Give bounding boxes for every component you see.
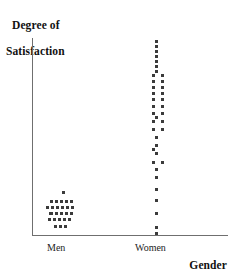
x-tick-label-men: Men [47,242,65,253]
data-point-women [155,176,158,179]
data-point-women [152,74,155,77]
data-point-women [152,161,155,164]
data-point-women [161,80,164,83]
data-point-men [50,212,53,215]
data-point-men [48,218,51,221]
data-point-women [155,116,158,119]
data-point-women [155,40,158,43]
data-point-women [155,168,158,171]
data-point-women [155,212,158,215]
y-axis-title: Degree of Satisfaction [6,6,65,71]
data-point-women [152,92,155,95]
y-axis-title-line2: Satisfaction [6,45,65,58]
data-point-men [53,218,56,221]
data-point-women [155,60,158,63]
data-point-men [68,218,71,221]
data-point-women [155,152,158,155]
data-point-men [55,212,58,215]
data-point-women [152,86,155,89]
x-tick-label-women: Women [135,242,166,253]
data-point-men [46,206,49,209]
data-point-women [155,136,158,139]
data-point-women [155,226,158,229]
data-point-men [59,225,62,228]
data-point-women [155,50,158,53]
data-point-women [152,105,155,108]
data-point-women [152,112,155,115]
data-point-men [70,200,73,203]
x-axis-title: Gender [189,259,227,271]
data-point-women [155,70,158,73]
data-point-men [58,218,61,221]
data-point-women [152,148,155,151]
data-point-men [66,206,69,209]
data-point-men [63,218,66,221]
data-point-women [161,105,164,108]
data-point-men [64,225,67,228]
data-point-women [161,161,164,164]
data-point-men [49,212,52,215]
data-point-women [155,199,158,202]
data-point-men [60,200,63,203]
data-point-men [60,212,63,215]
x-axis-line [32,235,228,236]
data-point-men [50,200,53,203]
data-point-women [155,188,158,191]
data-point-women [161,120,164,123]
data-point-women [161,98,164,101]
data-point-men [71,206,74,209]
data-point-women [161,92,164,95]
data-point-women [155,45,158,48]
data-point-women [161,128,164,131]
data-point-men [51,206,54,209]
data-point-men [62,191,65,194]
data-point-men [65,212,68,215]
data-point-women [155,65,158,68]
data-point-women [152,92,155,95]
data-point-women [155,144,158,147]
data-point-men [61,206,64,209]
data-point-women [161,74,164,77]
data-point-men [65,200,68,203]
data-point-women [155,55,158,58]
data-point-women [161,112,164,115]
data-point-women [152,80,155,83]
data-point-women [152,98,155,101]
dotplot-chart: Degree of Satisfaction Men Women Gender [0,0,233,278]
data-point-men [55,200,58,203]
data-point-men [56,206,59,209]
data-point-men [70,212,73,215]
y-axis-title-line1: Degree of [6,19,65,32]
data-point-women [152,120,155,123]
data-point-women [161,92,164,95]
data-point-women [161,86,164,89]
data-point-men [54,225,57,228]
y-axis-line [32,38,33,236]
data-point-women [152,128,155,131]
